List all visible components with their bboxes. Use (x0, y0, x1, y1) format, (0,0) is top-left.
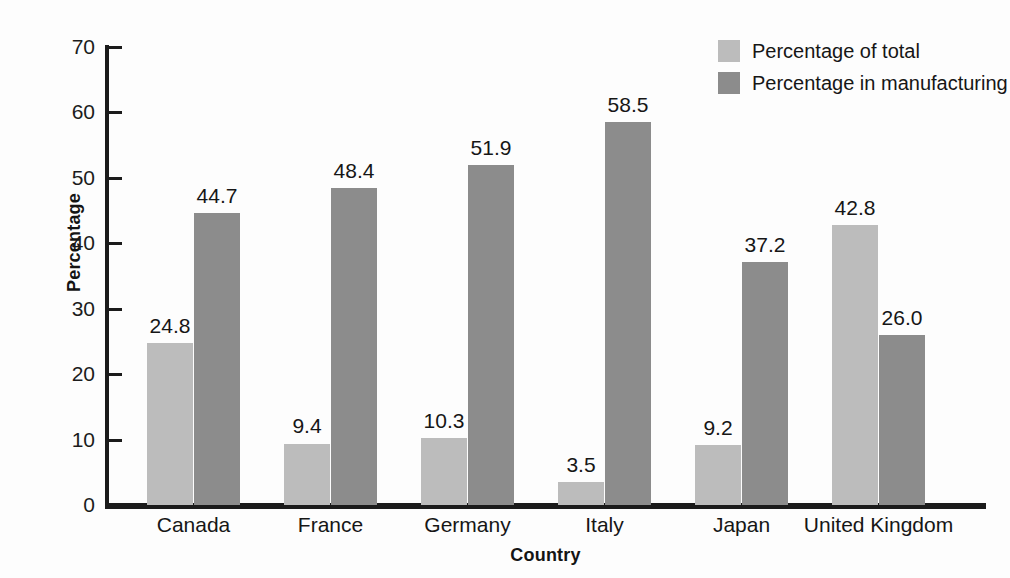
bar-value-label: 26.0 (865, 307, 939, 328)
legend-label: Percentage of total (752, 40, 920, 63)
bar-value-label: 48.4 (317, 160, 391, 181)
bar (194, 213, 240, 505)
bar (695, 445, 741, 505)
bar (742, 262, 788, 505)
chart-legend: Percentage of totalPercentage in manufac… (718, 36, 1008, 100)
bar-value-label: 37.2 (728, 234, 802, 255)
bar (421, 438, 467, 505)
y-axis-tick-label: 30 (53, 298, 95, 319)
legend-item: Percentage in manufacturing (718, 68, 1008, 98)
y-axis-tick-label: 60 (53, 101, 95, 122)
plot-area: 24.844.79.448.410.351.93.558.59.237.242.… (105, 47, 985, 505)
bar (605, 122, 651, 505)
bar-value-label: 58.5 (591, 94, 665, 115)
bar (832, 225, 878, 505)
y-axis-tick-label: 40 (53, 232, 95, 253)
bar (284, 444, 330, 506)
y-axis-tick-label: 70 (53, 36, 95, 57)
chart-page: Percentage 010203040506070 24.844.79.448… (0, 0, 1010, 578)
bar (468, 165, 514, 505)
x-axis-title: Country (105, 545, 986, 566)
bar-value-label: 42.8 (818, 197, 892, 218)
legend-swatch-icon (718, 72, 740, 94)
legend-swatch-icon (718, 40, 740, 62)
bar (331, 188, 377, 505)
y-axis-tick-label: 20 (53, 363, 95, 384)
y-axis-tick-label: 0 (53, 494, 95, 515)
x-axis-category-label: United Kingdom (787, 513, 970, 537)
bar-value-label: 51.9 (454, 137, 528, 158)
bar (879, 335, 925, 505)
y-axis-tick-label: 10 (53, 429, 95, 450)
bar (147, 343, 193, 505)
legend-label: Percentage in manufacturing (752, 72, 1008, 95)
y-axis-tick-label: 50 (53, 167, 95, 188)
legend-item: Percentage of total (718, 36, 1008, 66)
bar (558, 482, 604, 505)
bar-value-label: 44.7 (180, 185, 254, 206)
